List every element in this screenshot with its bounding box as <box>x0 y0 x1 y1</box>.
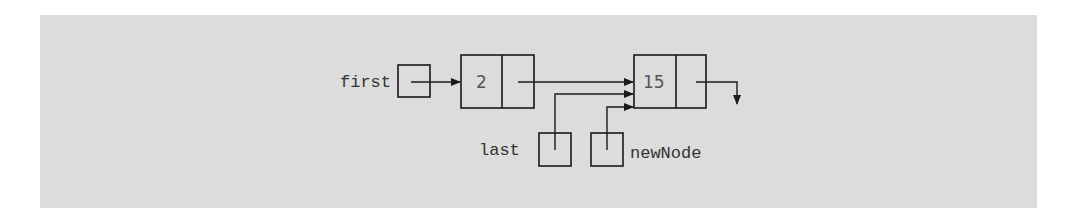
pointer-box-first <box>398 65 430 97</box>
pointer-label-newNode: newNode <box>630 144 701 163</box>
arrow-node-15-null <box>696 82 737 104</box>
pointer-label-first: first <box>340 73 391 92</box>
node-15-info: 15 <box>643 72 665 92</box>
pointer-first: first <box>340 65 460 97</box>
arrow-last-to-node-15 <box>555 94 633 150</box>
pointer-label-last: last <box>479 141 520 160</box>
pointer-newNode: newNode <box>591 107 701 166</box>
linked-list-diagram: first 2 15 last newNode <box>0 0 1070 217</box>
node-2-info: 2 <box>476 72 487 92</box>
node-15: 15 <box>634 55 737 108</box>
node-2: 2 <box>461 55 633 108</box>
